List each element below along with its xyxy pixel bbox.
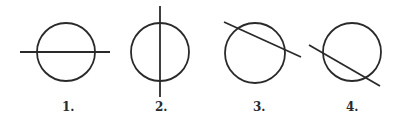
circle-3 [225,23,285,83]
circle-4 [323,23,381,81]
figure-3 [224,22,301,83]
figure-label-1: 1. [62,100,75,114]
figure-label-2: 2. [155,100,168,114]
figure-4 [309,23,381,86]
figure-1 [20,23,110,81]
diagram-canvas: 1. 2. 3. 4. [0,0,402,122]
figure-label-3: 3. [253,100,266,114]
figure-label-4: 4. [346,100,359,114]
figure-2 [131,6,189,97]
circles-diagram [0,0,402,122]
line-diagonal-3 [224,22,301,57]
